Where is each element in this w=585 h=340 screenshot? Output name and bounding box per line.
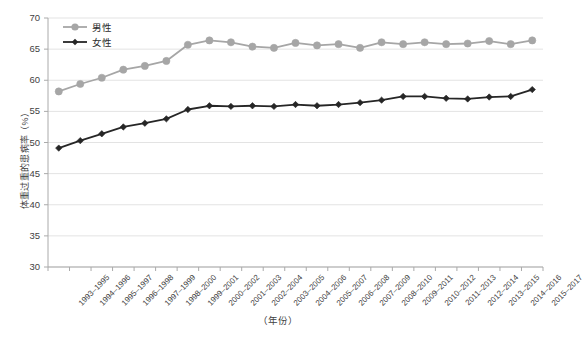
data-point	[335, 101, 341, 107]
data-point	[421, 93, 427, 99]
data-point	[77, 80, 84, 87]
y-tick-label: 40	[14, 199, 40, 210]
data-point	[400, 93, 406, 99]
data-point	[120, 66, 127, 73]
data-point	[400, 41, 407, 48]
data-point	[120, 124, 126, 130]
data-point	[507, 41, 514, 48]
data-point	[314, 103, 320, 109]
y-tick-label: 65	[14, 43, 40, 54]
data-point	[163, 116, 169, 122]
data-point	[356, 44, 363, 51]
legend-label: 男性	[92, 20, 112, 34]
data-point	[335, 41, 342, 48]
y-tick-label: 60	[14, 74, 40, 85]
data-point	[206, 37, 213, 44]
data-point	[99, 131, 105, 137]
data-point	[378, 39, 385, 46]
data-point	[443, 41, 450, 48]
x-axis-title: （年份）	[0, 313, 556, 327]
legend-marker-diamond-icon	[62, 36, 88, 48]
data-point	[486, 37, 493, 44]
data-point	[486, 94, 492, 100]
y-tick-label: 55	[14, 105, 40, 116]
data-point	[206, 103, 212, 109]
data-point	[271, 103, 277, 109]
data-point	[378, 97, 384, 103]
data-point	[292, 101, 298, 107]
data-point	[443, 95, 449, 101]
data-point	[227, 39, 234, 46]
data-point	[464, 96, 470, 102]
series-line-male	[59, 40, 532, 91]
legend-marker-circle-icon	[62, 21, 88, 33]
data-point	[228, 103, 234, 109]
data-point	[313, 42, 320, 49]
y-tick-label: 70	[14, 12, 40, 23]
data-point	[464, 40, 471, 47]
data-point	[184, 41, 191, 48]
y-tick-label: 30	[14, 261, 40, 272]
data-point	[98, 74, 105, 81]
y-tick-label: 35	[14, 230, 40, 241]
data-point	[508, 93, 514, 99]
data-point	[163, 57, 170, 64]
data-point	[249, 43, 256, 50]
series-line-female	[59, 90, 532, 149]
data-point	[357, 99, 363, 105]
data-point	[142, 120, 148, 126]
data-point	[270, 44, 277, 51]
y-tick-label: 45	[14, 168, 40, 179]
data-point	[529, 86, 535, 92]
legend-label: 女性	[92, 35, 112, 49]
y-tick-label: 50	[14, 137, 40, 148]
data-point	[56, 145, 62, 151]
data-point	[529, 37, 536, 44]
y-axis-title: 体重过重的患病率（%）	[18, 79, 31, 239]
data-point	[292, 39, 299, 46]
data-point	[249, 103, 255, 109]
data-point	[421, 39, 428, 46]
data-point	[141, 62, 148, 69]
data-point	[55, 88, 62, 95]
